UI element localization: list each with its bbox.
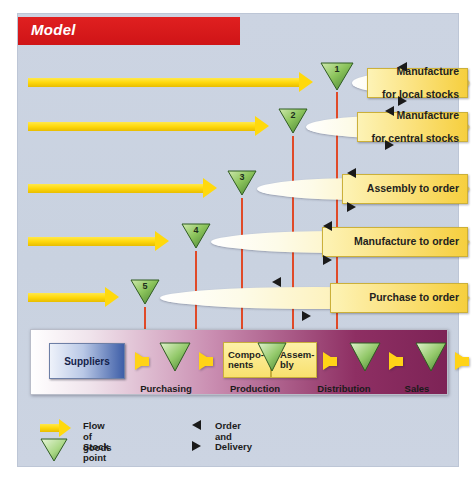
order-arrow-icon-4 [323, 221, 332, 231]
order-arrow-icon-5 [272, 277, 281, 287]
strategy-label-2: Manufacture for central stocks [357, 112, 468, 142]
stage-label-purchasing: Purchasing [126, 383, 206, 394]
flow-arrowhead-icon [255, 116, 269, 136]
band-arrow-5-icon [455, 352, 469, 370]
stock-point-4: 4 [181, 223, 211, 249]
legend-order-label: Order and [215, 420, 241, 442]
legend-order-icon [192, 420, 201, 430]
legend-stock-point-icon [40, 438, 68, 462]
flow-arrow-4 [28, 237, 156, 246]
strategy-label-4: Manufacture to order [322, 227, 468, 257]
title-bar: Model [18, 17, 240, 45]
diagram-root: Model Manufacture for local stocks 1 [0, 0, 472, 480]
flow-arrow-3 [28, 184, 204, 193]
stock-point-3: 3 [227, 170, 257, 196]
band-stock-point-purchasing [159, 342, 191, 372]
flow-arrow-1 [28, 78, 300, 87]
node-suppliers: Suppliers [49, 343, 125, 379]
order-arrow-icon-1 [398, 62, 407, 72]
legend-stock-point-label: Stock point [83, 441, 109, 463]
band-arrow-3-icon [323, 352, 337, 370]
stage-label-distribution: Distribution [298, 383, 390, 394]
legend-flow-arrowhead-icon [59, 419, 71, 437]
stock-point-2: 2 [278, 108, 308, 134]
flow-arrowhead-icon [203, 178, 217, 198]
flow-arrow-2 [28, 122, 256, 131]
strategy-label-5: Purchase to order [330, 283, 468, 313]
strategy-label-1-line2: for local stocks [382, 89, 459, 101]
strategy-label-3: Assembly to order [342, 174, 468, 204]
strategy-label-1: Manufacture for local stocks [367, 68, 468, 98]
stage-label-production: Production [212, 383, 298, 394]
node-components-line2: nents [228, 359, 253, 370]
band-arrow-4-icon [389, 352, 403, 370]
stock-point-5: 5 [130, 279, 160, 305]
delivery-arrow-icon-1 [398, 96, 407, 106]
page-title: Model [31, 21, 76, 38]
legend-delivery-label: Delivery [215, 441, 252, 452]
flow-arrowhead-icon [105, 287, 119, 307]
legend-delivery-icon [192, 441, 201, 451]
delivery-arrow-icon-5 [302, 311, 311, 321]
stock-point-5-number: 5 [130, 281, 160, 291]
node-suppliers-label: Suppliers [64, 356, 110, 367]
strategy-label-5-line1: Purchase to order [369, 292, 459, 304]
order-arrow-icon-3 [347, 168, 356, 178]
strategy-label-1-line1: Manufacture [382, 66, 459, 78]
band-stock-point-sales [415, 342, 447, 372]
flow-arrow-5 [28, 293, 106, 302]
delivery-arrow-icon-2 [385, 140, 394, 150]
delivery-arrow-icon-3 [347, 202, 356, 212]
stock-point-2-number: 2 [278, 110, 308, 120]
stock-point-1-number: 1 [320, 64, 354, 74]
order-arrow-icon-2 [385, 106, 394, 116]
band-arrow-1-icon [135, 352, 149, 370]
delivery-arrow-icon-4 [323, 255, 332, 265]
flow-arrowhead-icon [155, 231, 169, 251]
band-stock-point-distribution [349, 342, 381, 372]
strategy-label-3-line1: Assembly to order [367, 183, 459, 195]
stock-point-1: 1 [320, 62, 354, 91]
band-arrow-2-icon [199, 352, 213, 370]
band-stock-point-production [257, 342, 287, 372]
flow-arrowhead-icon [299, 72, 313, 92]
connector-line-3 [241, 198, 243, 338]
stock-point-4-number: 4 [181, 225, 211, 235]
stock-point-3-number: 3 [227, 172, 257, 182]
stage-label-sales: Sales [386, 383, 448, 394]
strategy-label-4-line1: Manufacture to order [354, 236, 459, 248]
legend-flow-icon [40, 424, 60, 432]
